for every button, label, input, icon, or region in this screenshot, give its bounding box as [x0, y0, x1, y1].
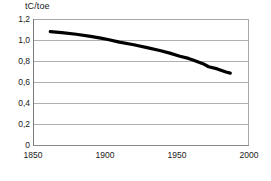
y-tick-label: 0,2 — [18, 120, 30, 129]
x-tick-label: 1850 — [24, 151, 43, 160]
gridline — [33, 61, 249, 62]
gridline — [33, 40, 249, 41]
chart-container: tC/toe 1,2 1,0 0,8 0,6 0,4 0,2 0 1850 19… — [0, 0, 271, 181]
gridline — [33, 103, 249, 104]
plot-area — [33, 19, 249, 145]
y-tick-label: 0,8 — [18, 57, 30, 66]
x-tick-label: 2000 — [240, 151, 259, 160]
plot-right-border — [248, 19, 249, 146]
y-tick-label: 1,2 — [18, 15, 30, 24]
x-tick-label: 1900 — [96, 151, 115, 160]
x-tick-label: 1950 — [168, 151, 187, 160]
gridline — [33, 124, 249, 125]
y-axis-line — [33, 19, 34, 146]
y-tick-label: 1,0 — [18, 36, 30, 45]
y-tick-label: 0,4 — [18, 99, 30, 108]
y-tick-label: 0,6 — [18, 78, 30, 87]
x-axis-line — [33, 145, 249, 146]
y-tick-label: 0 — [25, 141, 30, 150]
gridline — [33, 82, 249, 83]
gridline — [33, 19, 249, 20]
